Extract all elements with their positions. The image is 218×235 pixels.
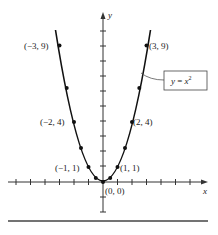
- point-m2-4: [72, 120, 76, 124]
- label-2-4: (2, 4): [133, 117, 153, 127]
- point-m0.5: [94, 176, 98, 180]
- point-3-9: [145, 44, 149, 48]
- label-m3-9: (−3, 9): [24, 41, 49, 51]
- parabola-chart: (−3, 9) (3, 9) (−2, 4) (2, 4) (−1, 1) (1…: [0, 0, 218, 235]
- label-m2-4: (−2, 4): [40, 117, 65, 127]
- label-3-9: (3, 9): [149, 41, 169, 51]
- curve-callout: y = x2: [141, 71, 207, 90]
- point-m1.5: [79, 146, 83, 150]
- point-1-1: [116, 165, 120, 169]
- label-1-1: (1, 1): [120, 163, 140, 173]
- point-m2.5: [65, 86, 69, 90]
- point-0-0: [101, 180, 105, 184]
- label-0-0: (0, 0): [105, 186, 125, 196]
- point-1.5: [123, 146, 127, 150]
- x-axis-arrow-icon: [201, 180, 208, 185]
- point-2.5: [137, 86, 141, 90]
- callout-equation: y = x2: [170, 75, 192, 86]
- callout-leader-line: [141, 73, 164, 80]
- point-m3-9: [58, 44, 62, 48]
- x-axis-label: x: [202, 186, 207, 196]
- point-m1-1: [87, 165, 91, 169]
- y-axis-label: y: [107, 10, 112, 20]
- point-0.5: [108, 176, 112, 180]
- y-axis-arrow-icon: [101, 12, 106, 19]
- label-m1-1: (−1, 1): [55, 163, 80, 173]
